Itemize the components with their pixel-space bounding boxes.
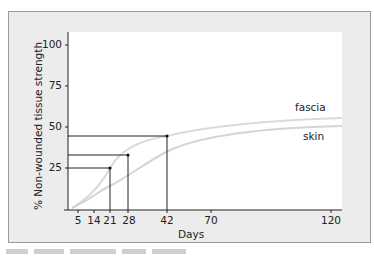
y-tick-label: 25 — [38, 161, 62, 173]
reference-lines — [68, 136, 167, 210]
x-tick-label: 28 — [117, 214, 141, 226]
x-tick-label: 120 — [319, 214, 343, 226]
x-tick-label: 70 — [199, 214, 223, 226]
y-tick-label: 100 — [38, 38, 62, 50]
y-tick-label: 50 — [38, 120, 62, 132]
skin-curve — [72, 126, 342, 208]
fascia-curve — [72, 118, 342, 208]
legend-skin: skin — [303, 130, 324, 142]
figure-caption-cropped — [6, 249, 206, 257]
legend-fascia: fascia — [295, 101, 326, 113]
x-axis-label: Days — [178, 228, 204, 240]
y-tick-label: 75 — [38, 79, 62, 91]
reference-points — [108, 134, 168, 169]
x-tick-label: 42 — [155, 214, 179, 226]
